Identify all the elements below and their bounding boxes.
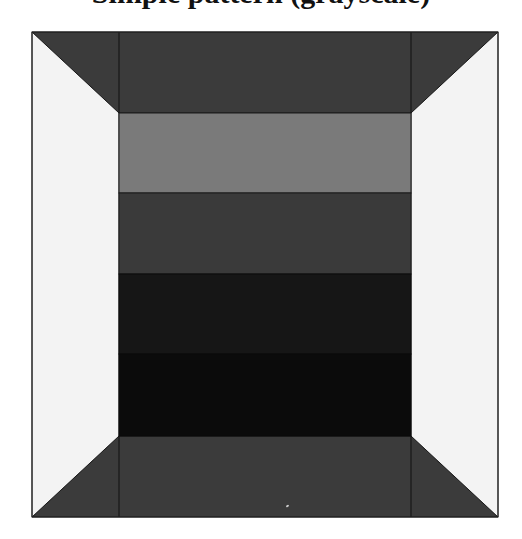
left-panel bbox=[32, 32, 119, 517]
stripe-4 bbox=[119, 354, 411, 436]
stripe-3 bbox=[119, 274, 411, 354]
stripe-1 bbox=[119, 113, 411, 193]
right-panel bbox=[411, 32, 498, 517]
stripe-2 bbox=[119, 193, 411, 274]
box-illusion-diagram bbox=[0, 0, 522, 539]
